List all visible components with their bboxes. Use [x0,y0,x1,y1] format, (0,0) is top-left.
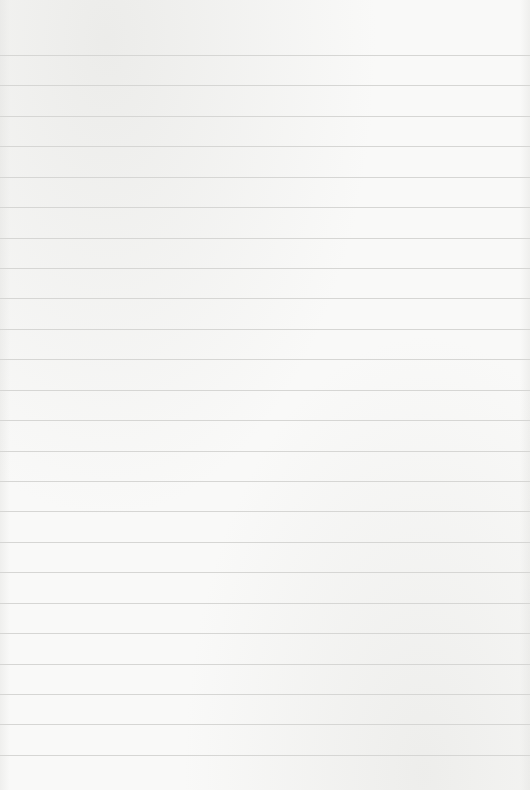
ruled-line [0,238,530,239]
ruled-line [0,724,530,725]
ruled-line [0,390,530,391]
ruled-line [0,55,530,56]
ruled-line [0,511,530,512]
ruled-line [0,268,530,269]
ruled-line [0,146,530,147]
ruled-line [0,694,530,695]
ruled-line [0,542,530,543]
ruled-line [0,603,530,604]
ruled-line [0,207,530,208]
ruled-line [0,481,530,482]
ruled-line [0,633,530,634]
ruled-line [0,572,530,573]
ruled-line [0,451,530,452]
ruled-line [0,664,530,665]
ruled-line [0,85,530,86]
ruled-line [0,755,530,756]
ruled-line [0,329,530,330]
ruled-line [0,298,530,299]
ruled-line [0,177,530,178]
ruled-line [0,420,530,421]
ruled-line [0,116,530,117]
ruled-line [0,359,530,360]
lined-paper [0,0,530,790]
